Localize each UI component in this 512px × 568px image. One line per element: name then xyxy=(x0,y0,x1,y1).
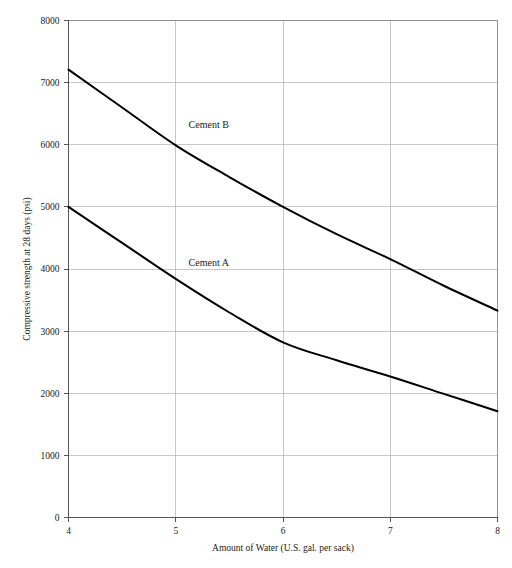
line-chart: 45678 010002000300040005000600070008000 … xyxy=(0,0,512,568)
x-axis-title: Amount of Water (U.S. gal. per sack) xyxy=(212,543,354,554)
y-tick-label: 6000 xyxy=(41,140,60,150)
x-tick-label: 4 xyxy=(66,526,71,536)
y-tick-label: 1000 xyxy=(41,451,60,461)
y-tick-label: 7000 xyxy=(41,78,60,88)
y-tick-label: 4000 xyxy=(41,264,60,274)
y-tick-label: 0 xyxy=(55,513,60,523)
chart-page: 45678 010002000300040005000600070008000 … xyxy=(0,0,512,568)
x-tick-label: 5 xyxy=(173,526,178,536)
gridlines-group xyxy=(69,21,498,518)
series-label-cement-a: Cement A xyxy=(189,257,230,268)
series-label-cement-b: Cement B xyxy=(189,119,230,130)
y-tick-labels-group: 010002000300040005000600070008000 xyxy=(41,16,60,523)
y-tick-label: 2000 xyxy=(41,389,60,399)
x-tick-label: 8 xyxy=(495,526,500,536)
x-tick-label: 6 xyxy=(281,526,286,536)
y-tick-label: 3000 xyxy=(41,327,60,337)
y-tick-label: 5000 xyxy=(41,202,60,212)
y-axis-title: Compressive strength at 28 days (psi) xyxy=(22,197,33,340)
x-tick-labels-group: 45678 xyxy=(66,526,500,536)
tick-marks-group xyxy=(64,21,498,523)
series-labels-group: Cement BCement A xyxy=(189,119,230,268)
x-tick-label: 7 xyxy=(388,526,393,536)
y-tick-label: 8000 xyxy=(41,16,60,26)
